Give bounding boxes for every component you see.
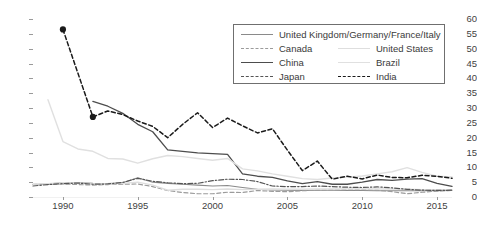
series-marker-6-0 — [60, 26, 66, 32]
legend-label-3: China — [279, 56, 304, 70]
y-tick-label-20: 20 — [451, 133, 477, 143]
gridline-y-0 — [33, 197, 452, 198]
legend-label-6: India — [376, 70, 397, 84]
y-tick-label-15: 15 — [451, 148, 477, 158]
y-tick-label-45: 45 — [451, 59, 477, 69]
y-tick-label-10: 10 — [451, 162, 477, 172]
legend-swatch-icon-2 — [338, 48, 370, 49]
y-tick-mark-0 — [29, 197, 33, 198]
y-tick-label-60: 60 — [451, 14, 477, 24]
line-chart: 605550454035302520151050 199019952000200… — [0, 0, 477, 231]
legend-label-5: Japan — [279, 70, 305, 84]
legend-swatch-icon-1 — [241, 48, 273, 49]
x-tick-label-2000: 2000 — [191, 201, 235, 211]
x-tick-label-1995: 1995 — [116, 201, 160, 211]
x-tick-label-2015: 2015 — [415, 201, 459, 211]
y-tick-label-35: 35 — [451, 88, 477, 98]
legend-swatch-icon-5 — [241, 76, 273, 77]
legend-label-2: United States — [376, 42, 433, 56]
y-tick-label-50: 50 — [451, 44, 477, 54]
x-tick-label-2005: 2005 — [265, 201, 309, 211]
series-marker-6-1 — [90, 114, 96, 120]
y-tick-label-30: 30 — [451, 103, 477, 113]
y-tick-label-40: 40 — [451, 73, 477, 83]
legend-swatch-icon-4 — [338, 62, 370, 63]
y-tick-label-55: 55 — [451, 29, 477, 39]
y-tick-label-25: 25 — [451, 118, 477, 128]
chart-legend: United Kingdom/Germany/France/ItalyCanad… — [233, 24, 445, 84]
legend-label-0: United Kingdom/Germany/France/Italy — [279, 28, 441, 42]
x-tick-label-1990: 1990 — [41, 201, 85, 211]
series-line-2 — [33, 182, 452, 190]
legend-swatch-icon-0 — [241, 34, 273, 35]
legend-swatch-icon-3 — [241, 62, 273, 63]
x-tick-label-2010: 2010 — [340, 201, 384, 211]
legend-label-1: Canada — [279, 42, 312, 56]
y-tick-label-5: 5 — [451, 177, 477, 187]
legend-label-4: Brazil — [376, 56, 400, 70]
legend-swatch-icon-6 — [338, 76, 370, 77]
